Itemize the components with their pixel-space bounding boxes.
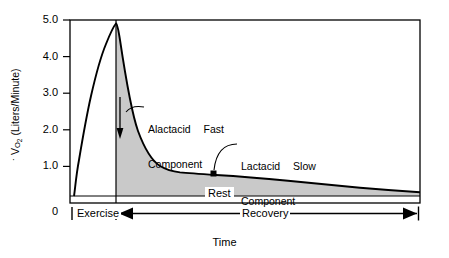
rest-label: Rest xyxy=(205,187,234,199)
y-tick-label-1: 1.0 xyxy=(32,159,58,171)
recovery-band-label: Recovery xyxy=(240,207,290,219)
alactacid-line1b: Fast xyxy=(204,123,224,135)
y-tick-label-2: 2.0 xyxy=(32,123,58,135)
y-axis-ticks xyxy=(63,20,70,166)
exercise-band-label: Exercise xyxy=(75,207,121,219)
x-axis-title: Time xyxy=(0,236,449,248)
alactacid-line1a: Alactacid xyxy=(148,123,191,135)
lactacid-line2: Component xyxy=(241,196,316,208)
y-axis-title-text: V˙O2 (Liters/Minute) xyxy=(9,69,24,156)
alactacid-annotation: AlactacidFast Component xyxy=(148,101,224,182)
y-tick-label-3: 3.0 xyxy=(32,86,58,98)
y-tick-label-5: 5.0 xyxy=(32,13,58,25)
y-axis-title: V˙O2 (Liters/Minute) xyxy=(6,28,26,196)
lactacid-line1a: Lactacid xyxy=(241,160,280,172)
lactacid-line1b: Slow xyxy=(293,160,316,172)
vo2-recovery-chart xyxy=(0,0,449,258)
alactacid-line2: Component xyxy=(148,159,224,171)
y-tick-label-0: 0 xyxy=(32,205,58,217)
v-dot-symbol: V˙ xyxy=(9,148,21,155)
y-tick-label-4: 4.0 xyxy=(32,50,58,62)
